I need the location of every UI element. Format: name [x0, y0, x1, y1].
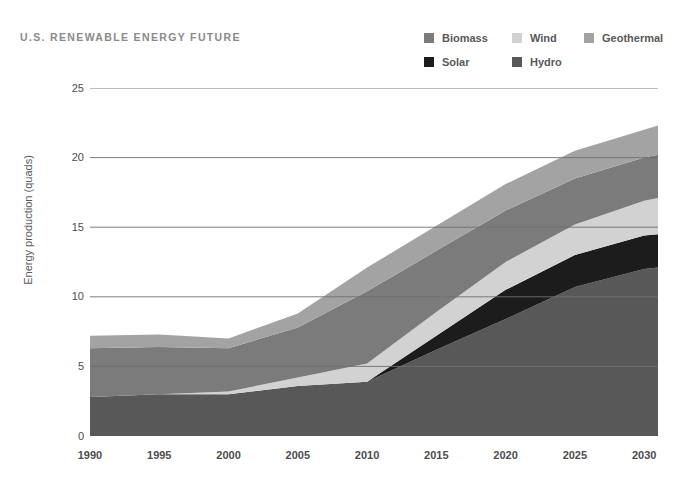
legend-swatch-icon — [512, 57, 522, 67]
legend-item-geothermal[interactable]: Geothermal — [584, 30, 663, 46]
y-tick-label: 15 — [58, 222, 84, 233]
y-tick-label: 5 — [58, 361, 84, 372]
y-axis-title: Energy production (quads) — [22, 130, 34, 310]
legend-swatch-icon — [584, 33, 594, 43]
x-tick-label: 2005 — [273, 450, 323, 461]
x-tick-label: 2010 — [342, 450, 392, 461]
x-axis-tick-labels: 199019952000200520102015202020252030 — [90, 450, 658, 466]
x-tick-label: 2015 — [411, 450, 461, 461]
y-tick-label: 0 — [58, 431, 84, 442]
legend-swatch-icon — [424, 33, 434, 43]
x-tick-label: 2000 — [204, 450, 254, 461]
legend-label: Biomass — [442, 32, 488, 44]
legend-item-hydro[interactable]: Hydro — [512, 54, 562, 70]
legend-label: Hydro — [530, 56, 562, 68]
legend-label: Wind — [530, 32, 557, 44]
legend-swatch-icon — [512, 33, 522, 43]
legend-label: Solar — [442, 56, 470, 68]
y-tick-label: 20 — [58, 152, 84, 163]
x-tick-label: 2020 — [481, 450, 531, 461]
chart-legend: BiomassWindGeothermalSolarHydro — [424, 30, 668, 76]
x-tick-label: 1995 — [134, 450, 184, 461]
stacked-area-svg — [90, 88, 658, 436]
legend-swatch-icon — [424, 57, 434, 67]
x-tick-label: 2025 — [550, 450, 600, 461]
legend-row: SolarHydro — [424, 54, 668, 74]
legend-item-biomass[interactable]: Biomass — [424, 30, 488, 46]
y-tick-label: 25 — [58, 83, 84, 94]
chart-container: U.S. RENEWABLE ENERGY FUTURE BiomassWind… — [0, 0, 676, 484]
legend-item-wind[interactable]: Wind — [512, 30, 557, 46]
x-tick-label: 2030 — [619, 450, 669, 461]
y-tick-label: 10 — [58, 291, 84, 302]
x-tick-label: 1990 — [65, 450, 115, 461]
legend-label: Geothermal — [602, 32, 663, 44]
legend-row: BiomassWindGeothermal — [424, 30, 668, 50]
y-axis-tick-labels: 0510152025 — [52, 0, 84, 484]
plot-area — [90, 88, 658, 436]
legend-item-solar[interactable]: Solar — [424, 54, 470, 70]
